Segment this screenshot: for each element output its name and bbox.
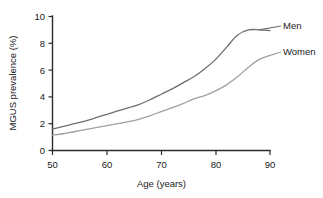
leader-line-women xyxy=(270,52,281,55)
y-tick-label-4: 4 xyxy=(40,91,45,102)
x-tick-label-60: 60 xyxy=(102,159,113,170)
series-label-men: Men xyxy=(283,20,301,31)
leader-line-men xyxy=(259,26,281,30)
y-tick-label-6: 6 xyxy=(40,65,45,76)
mgus-prevalence-line-chart: 0 2 4 6 8 10 50 60 70 80 90 Age (years) … xyxy=(0,0,323,198)
x-tick-label-50: 50 xyxy=(47,159,58,170)
chart-figure: 0 2 4 6 8 10 50 60 70 80 90 Age (years) … xyxy=(0,0,323,198)
series-label-women: Women xyxy=(283,46,316,57)
y-axis-ticks: 0 2 4 6 8 10 xyxy=(34,11,52,156)
y-tick-label-2: 2 xyxy=(40,118,45,129)
y-tick-label-8: 8 xyxy=(40,38,45,49)
x-tick-label-90: 90 xyxy=(265,159,276,170)
y-tick-label-0: 0 xyxy=(40,145,45,156)
y-axis-title: MGUS prevalence (%) xyxy=(7,35,18,130)
x-tick-label-80: 80 xyxy=(211,159,222,170)
series-line-women xyxy=(53,55,271,135)
x-axis-ticks: 50 60 70 80 90 xyxy=(47,151,275,171)
x-axis-title: Age (years) xyxy=(137,178,186,189)
series-line-men xyxy=(53,29,271,129)
y-tick-label-10: 10 xyxy=(34,11,45,22)
x-tick-label-70: 70 xyxy=(156,159,167,170)
